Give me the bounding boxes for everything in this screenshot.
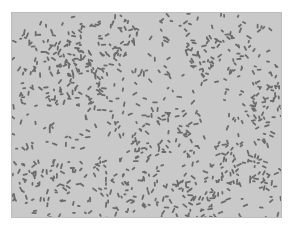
bacteria-cells — [12, 13, 282, 218]
micrograph-image — [11, 12, 282, 218]
